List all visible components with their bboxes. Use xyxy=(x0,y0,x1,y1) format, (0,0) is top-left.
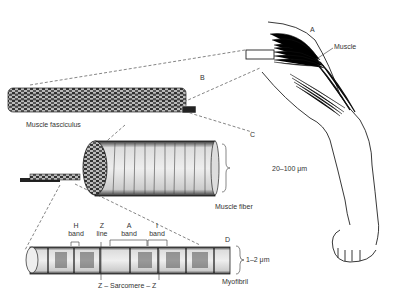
myofibril-drawing xyxy=(26,240,244,280)
label-a-band: A band xyxy=(119,222,139,238)
muscle-fasciculus-drawing xyxy=(8,88,196,113)
a-band-line1: A xyxy=(119,222,139,230)
h-band-line2: band xyxy=(66,230,86,238)
label-c: C xyxy=(250,131,255,138)
h-band-line1: H xyxy=(66,222,86,230)
label-muscle-fiber: Muscle fiber xyxy=(215,203,253,211)
label-i-band: I band xyxy=(147,222,167,238)
label-myofibril-diameter: 1–2 μm xyxy=(246,256,270,264)
i-band-line1: I xyxy=(147,222,167,230)
z-line-line1: Z xyxy=(92,222,112,230)
label-a: A xyxy=(310,26,315,33)
label-muscle-fasciculus: Muscle fasciculus xyxy=(26,121,81,129)
label-myofibril: Myofibril xyxy=(222,278,248,286)
i-band-line2: band xyxy=(147,230,167,238)
label-h-band: H band xyxy=(66,222,86,238)
label-z-line: Z line xyxy=(92,222,112,238)
label-sarcomere: Z – Sarcomere – Z xyxy=(98,282,156,290)
label-b: B xyxy=(200,74,205,81)
label-d: D xyxy=(225,236,230,243)
a-band-line2: band xyxy=(119,230,139,238)
label-muscle: Muscle xyxy=(334,43,356,51)
z-line-line2: line xyxy=(92,230,112,238)
label-fiber-diameter: 20–100 μm xyxy=(272,165,307,173)
muscle-fiber-drawing xyxy=(20,141,230,196)
